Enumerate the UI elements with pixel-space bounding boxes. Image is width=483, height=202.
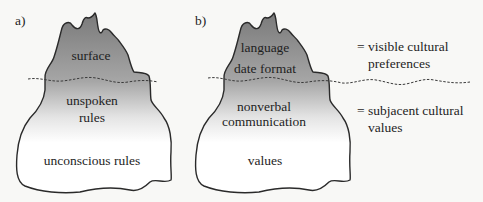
legend-visible-equals: = — [357, 39, 365, 54]
legend-visible: = visible cultural — [357, 39, 449, 54]
label-unspoken: unspoken — [66, 93, 118, 108]
legend-subjacent-line1: subjacent cultural — [368, 103, 464, 118]
legend-subjacent: = subjacent cultural — [357, 103, 464, 118]
panel-a-label: a) — [15, 13, 26, 28]
iceberg-figure: a) b) surface unspoken rules unconscious… — [0, 0, 483, 202]
label-surface: surface — [72, 48, 111, 63]
legend-subjacent-line2: values — [368, 120, 403, 135]
legend-subjacent-equals: = — [357, 103, 365, 118]
label-unconscious-rules: unconscious rules — [44, 153, 140, 168]
label-values: values — [248, 153, 283, 168]
label-date-format: date format — [234, 61, 296, 76]
legend-visible-line1: visible cultural — [368, 39, 449, 54]
label-rules: rules — [79, 110, 105, 125]
panel-b-label: b) — [195, 13, 206, 28]
label-nonverbal: nonverbal — [237, 99, 291, 114]
label-language: language — [241, 40, 290, 55]
label-communication: communication — [222, 114, 306, 129]
legend-visible-line2: preferences — [368, 56, 430, 71]
